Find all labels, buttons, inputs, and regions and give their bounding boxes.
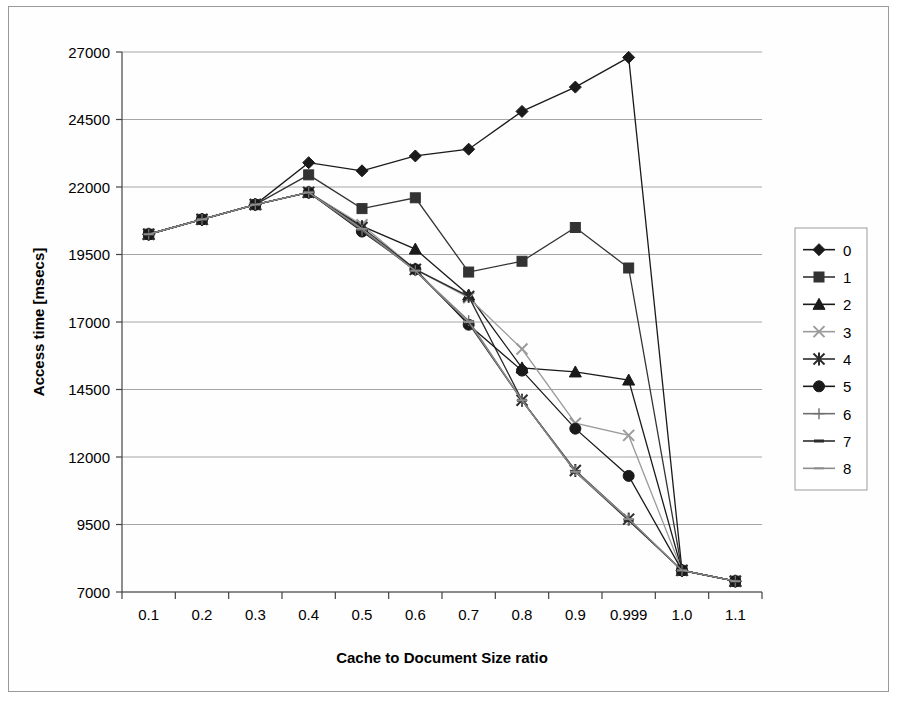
data-point-marker — [517, 399, 527, 401]
y-tick-label: 14500 — [68, 381, 110, 398]
data-point-marker — [410, 193, 420, 203]
data-point-marker — [517, 256, 527, 266]
data-series-6 — [143, 187, 741, 587]
y-tick-label: 24500 — [68, 111, 110, 128]
y-axis-ticks: 7000950012000145001700019500220002450027… — [68, 44, 122, 601]
legend-item-label: 6 — [843, 406, 851, 423]
chart-legend: 012345678 — [795, 228, 867, 490]
data-series-8 — [144, 191, 741, 582]
data-point-marker — [623, 470, 634, 481]
x-tick-label: 1.0 — [672, 606, 693, 623]
series-path — [149, 57, 736, 581]
data-point-marker — [409, 243, 421, 254]
data-point-marker — [814, 467, 824, 469]
legend-item-label: 0 — [843, 242, 851, 259]
legend-item-label: 2 — [843, 296, 851, 313]
y-tick-label: 19500 — [68, 246, 110, 263]
data-point-marker — [570, 471, 580, 473]
x-tick-label: 0.6 — [405, 606, 426, 623]
data-point-marker — [357, 228, 367, 230]
y-tick-label: 17000 — [68, 314, 110, 331]
data-point-marker — [357, 204, 367, 214]
data-point-marker — [356, 165, 368, 177]
x-tick-label: 0.999 — [610, 606, 648, 623]
x-tick-label: 0.7 — [458, 606, 479, 623]
data-point-marker — [464, 267, 474, 277]
x-tick-label: 0.2 — [192, 606, 213, 623]
data-point-marker — [814, 272, 824, 282]
data-point-marker — [250, 204, 260, 206]
legend-item-label: 1 — [843, 269, 851, 286]
data-point-marker — [623, 51, 635, 63]
data-point-marker — [623, 430, 634, 441]
data-point-marker — [730, 580, 740, 582]
data-point-marker — [144, 233, 154, 235]
data-point-marker — [197, 218, 207, 220]
data-point-marker — [570, 223, 580, 233]
y-tick-label: 12000 — [68, 449, 110, 466]
y-axis-title: Access time [msecs] — [30, 248, 47, 396]
data-series-7 — [144, 191, 741, 583]
data-series-3 — [143, 187, 741, 587]
legend-item-label: 3 — [843, 324, 851, 341]
series-path — [149, 192, 736, 581]
data-point-marker — [304, 191, 314, 193]
data-point-marker — [409, 150, 421, 162]
data-point-marker — [463, 143, 475, 155]
data-point-marker — [410, 270, 420, 272]
data-series-2 — [143, 186, 742, 586]
data-point-marker — [624, 263, 634, 273]
series-path — [149, 192, 736, 581]
data-point-marker — [303, 157, 315, 169]
line-chart-plot: 7000950012000145001700019500220002450027… — [0, 0, 901, 701]
data-series-1 — [144, 170, 741, 586]
data-point-marker — [304, 170, 314, 180]
legend-item-label: 8 — [843, 460, 851, 477]
y-tick-label: 27000 — [68, 44, 110, 61]
data-series-4 — [143, 186, 741, 588]
x-tick-label: 1.1 — [725, 606, 746, 623]
series-path — [149, 192, 736, 581]
data-point-marker — [814, 440, 824, 443]
x-tick-label: 0.4 — [298, 606, 319, 623]
x-tick-label: 0.5 — [352, 606, 373, 623]
legend-item-label: 4 — [843, 351, 851, 368]
chart-container: 7000950012000145001700019500220002450027… — [0, 0, 901, 701]
data-series-layer — [143, 51, 742, 587]
data-series-5 — [143, 187, 741, 587]
x-tick-label: 0.1 — [138, 606, 159, 623]
data-point-marker — [517, 344, 528, 355]
data-point-marker — [517, 365, 528, 376]
data-point-marker — [464, 321, 474, 323]
y-tick-label: 7000 — [77, 584, 110, 601]
x-axis-title: Cache to Document Size ratio — [336, 649, 548, 666]
series-path — [149, 192, 736, 581]
x-tick-label: 0.3 — [245, 606, 266, 623]
data-point-marker — [569, 81, 581, 93]
series-path — [149, 192, 736, 581]
data-point-marker — [570, 423, 581, 434]
x-tick-label: 0.9 — [565, 606, 586, 623]
series-path — [149, 192, 736, 581]
x-axis-ticks: 0.10.20.30.40.50.60.70.80.90.9991.01.1 — [122, 592, 762, 623]
y-tick-label: 9500 — [77, 516, 110, 533]
data-point-marker — [677, 569, 687, 571]
legend-item-label: 7 — [843, 433, 851, 450]
data-series-0 — [143, 51, 742, 587]
legend-item-label: 5 — [843, 378, 851, 395]
y-tick-label: 22000 — [68, 179, 110, 196]
x-tick-label: 0.8 — [512, 606, 533, 623]
data-point-marker — [516, 105, 528, 117]
data-point-marker — [624, 518, 634, 520]
series-path — [149, 192, 736, 581]
data-point-marker — [814, 381, 825, 392]
